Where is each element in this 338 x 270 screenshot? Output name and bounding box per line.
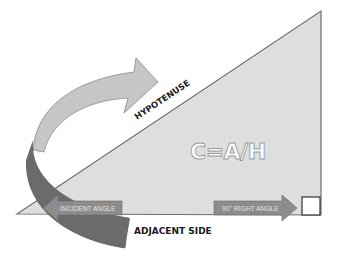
adjacent-side-label: ADJACENT SIDE [134, 226, 212, 236]
right-angle-label: 90° RIGHT ANGLE [222, 205, 279, 212]
formula-text: C=A/H [190, 139, 266, 164]
incident-angle-label: INCIDENT ANGLE [60, 205, 116, 212]
cosine-diagram: INCIDENT ANGLE 90° RIGHT ANGLE HYPOTENUS… [0, 0, 338, 270]
right-angle-marker [302, 197, 320, 215]
